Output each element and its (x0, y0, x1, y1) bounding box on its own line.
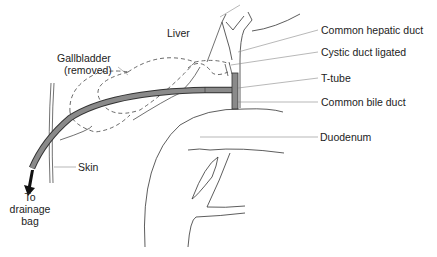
label-common-hepatic-duct: Common hepatic duct (321, 24, 423, 36)
hepatic-duct-left-inner (226, 22, 236, 30)
duodenum-inner (188, 149, 284, 247)
label-gallbladder: Gallbladder (removed) (56, 52, 112, 76)
label-duodenum: Duodenum (320, 131, 371, 143)
label-cystic-duct: Cystic duct ligated (321, 46, 406, 58)
t-tube-crossbar (232, 73, 238, 109)
label-drainage-line3: bag (4, 215, 56, 227)
liver-left-line (207, 22, 222, 62)
t-tube-shaft (32, 90, 232, 168)
label-common-bile-duct: Common bile duct (321, 96, 406, 108)
label-drainage-line1: To (4, 191, 56, 203)
hepatic-duct-left (222, 14, 232, 60)
hepatic-duct-right-2 (236, 16, 244, 26)
duodenum-outline (144, 109, 283, 247)
label-liver: Liver (167, 27, 190, 39)
label-gallbladder-line2: (removed) (56, 64, 112, 76)
label-drainage: To drainage bag (4, 191, 56, 227)
cystic-duct-stub (225, 62, 232, 76)
label-gallbladder-line1: Gallbladder (56, 52, 112, 64)
liver-outline (252, 14, 300, 31)
gallbladder-solid-lines (60, 67, 200, 140)
label-t-tube: T-tube (321, 72, 351, 84)
hepatic-duct-right (240, 12, 252, 108)
label-drainage-line2: drainage (4, 203, 56, 215)
diagram-canvas (0, 0, 437, 257)
label-skin: Skin (78, 161, 98, 173)
